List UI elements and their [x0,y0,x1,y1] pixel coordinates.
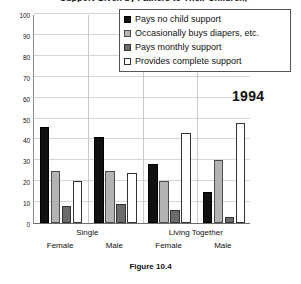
legend-item: Occasionally buys diapers, etc. [124,26,286,40]
legend-label: Pays monthly support [135,42,222,52]
legend-item: Provides complete support [124,54,286,68]
y-tick-label: 20 [4,179,30,186]
bar [73,181,83,223]
y-tick-label: 100 [4,12,30,19]
legend-swatch-icon [124,16,131,23]
legend-item: Pays no child support [124,12,286,26]
bar [236,123,246,223]
x-tick-label: Male [196,241,250,250]
y-tick-label: 50 [4,116,30,123]
x-tick-label: Male [87,241,141,250]
y-tick-label: 90 [4,32,30,39]
x-group-label: Living Together [142,228,251,237]
legend-item: Pays monthly support [124,40,286,54]
bar-group [34,15,88,223]
y-tick-label: 10 [4,200,30,207]
legend-swatch-icon [124,44,131,51]
bar [203,192,213,223]
y-tick-label: 80 [4,53,30,60]
bar [62,206,72,223]
bar [94,137,104,223]
year-annotation: 1994 [232,88,264,104]
bar-chart: Support Given by Fathers to Their Childr… [0,0,301,284]
chart-legend: Pays no child supportOccasionally buys d… [119,9,291,72]
bar [51,171,61,223]
legend-label: Provides complete support [135,56,242,66]
bar [170,210,180,223]
chart-title: Support Given by Fathers to Their Childr… [60,0,250,2]
bar [148,164,158,223]
legend-label: Occasionally buys diapers, etc. [135,28,259,38]
legend-label: Pays no child support [135,14,221,24]
group-separator [88,15,89,223]
y-tick-label: 70 [4,74,30,81]
x-tick-label: Female [33,241,87,250]
x-group-label: Single [33,228,142,237]
x-axis-labels: FemaleMaleFemaleMaleSingleLiving Togethe… [0,226,301,258]
bar [127,173,137,223]
legend-swatch-icon [124,58,131,65]
y-tick-label: 30 [4,158,30,165]
y-axis-tick-labels: 0102030405060708090100 [0,15,30,224]
bar [225,217,235,223]
x-tick-label: Female [142,241,196,250]
y-tick-label: 60 [4,95,30,102]
bar [40,127,50,223]
bar [214,160,224,223]
bar [181,133,191,223]
figure-caption: Figure 10.4 [0,262,301,271]
y-tick-label: 40 [4,137,30,144]
bar [116,204,126,223]
bar [105,171,115,223]
legend-swatch-icon [124,30,131,37]
bar [159,181,169,223]
